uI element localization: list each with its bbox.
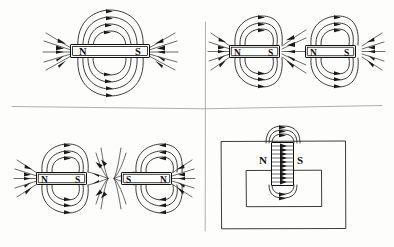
rep-right-loops-top (136, 144, 182, 172)
frame-pole-label-north: N (259, 154, 267, 166)
right-pole-label-north: N (310, 48, 317, 58)
frame-bottom-loops (269, 185, 297, 198)
frame-top-arrows (279, 125, 286, 137)
left-field-arrows-left (218, 38, 226, 68)
horizontal-divider (12, 106, 382, 109)
rep-left-pole-south: S (75, 175, 80, 185)
rep-right-arrows-top (159, 143, 166, 160)
rep-right-pole-north: N (160, 175, 167, 185)
frame-pole-label-south: S (297, 154, 303, 166)
right-pole-label-south: S (344, 48, 349, 58)
panel-repelling-magnets: N S (14, 143, 195, 214)
right-field-arrows-right (367, 38, 375, 68)
field-loops-bottom (78, 56, 144, 96)
rep-right-pole-south: S (126, 175, 131, 185)
rep-right-arrows-right (177, 165, 185, 195)
panel-magnet-in-frame: N S (222, 125, 346, 229)
neutral-point-arrows (92, 160, 107, 199)
field-arrows-bottom (104, 73, 113, 98)
pole-label-south: S (135, 46, 141, 57)
field-arrows-top (104, 9, 113, 34)
panel-single-bar-magnet: N S (43, 9, 178, 97)
rep-left-arrows-left (24, 165, 32, 195)
magnetic-field-diagram: N S (0, 0, 394, 247)
left-pole-label-south: S (268, 48, 273, 58)
left-field-arrows-top (258, 15, 265, 32)
pole-label-north: N (79, 46, 87, 57)
rep-left-pole-north: N (41, 175, 48, 185)
rep-left-arrows-top (64, 143, 71, 160)
left-pole-label-north: N (234, 48, 241, 58)
frame-bottom-arrows (279, 192, 286, 200)
right-field-arrows-top (334, 15, 341, 32)
diagram-canvas: N S (0, 0, 394, 247)
rep-right-loops-bottom (136, 185, 182, 213)
panel-attracting-magnets: N S (208, 15, 385, 88)
